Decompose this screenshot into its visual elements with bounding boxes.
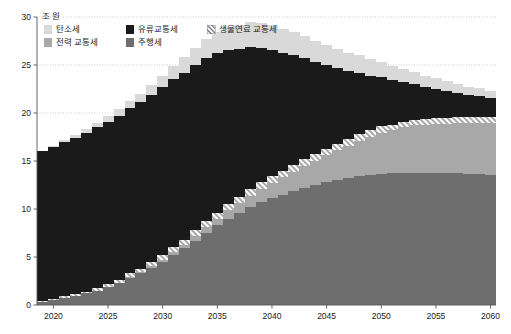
- bar-segment-유류교통세: [70, 138, 81, 294]
- bar-segment-생물연료 교통세: [365, 130, 376, 137]
- bar-segment-유류교통세: [157, 87, 168, 255]
- bar-segment-유류교통세: [114, 116, 125, 280]
- bar-segment-유류교통세: [146, 95, 157, 262]
- bar-segment-생물연료 교통세: [409, 120, 420, 126]
- bar-segment-탄소세: [354, 55, 365, 72]
- bar-segment-전력 교통세: [474, 123, 485, 175]
- bar-segment-주행세: [343, 178, 354, 305]
- x-tick-label: 2040: [263, 311, 282, 321]
- bar-segment-탄소세: [179, 57, 190, 72]
- bar-segment-주행세: [420, 173, 431, 305]
- bar-segment-탄소세: [146, 85, 157, 95]
- bar-segment-탄소세: [343, 53, 354, 71]
- bar-segment-주행세: [332, 180, 343, 305]
- y-tick-label: 15: [22, 156, 32, 166]
- bar-segment-탄소세: [441, 81, 452, 91]
- x-tick-label: 2050: [372, 311, 391, 321]
- bar-segment-탄소세: [212, 32, 223, 53]
- bar-segment-유류교통세: [59, 142, 70, 297]
- bar-segment-유류교통세: [365, 76, 376, 131]
- bar-segment-생물연료 교통세: [474, 117, 485, 123]
- bar-segment-탄소세: [114, 109, 125, 116]
- bar-segment-생물연료 교통세: [135, 269, 146, 273]
- bar-segment-탄소세: [81, 129, 92, 133]
- bar-segment-생물연료 교통세: [103, 284, 114, 287]
- y-tick-label: 30: [22, 12, 32, 22]
- y-tick-label: 0: [26, 300, 31, 310]
- legend-label-탄소세: 탄소세: [56, 24, 80, 34]
- bar-segment-주행세: [387, 173, 398, 305]
- bar-segment-탄소세: [48, 146, 59, 147]
- bar-segment-탄소세: [376, 62, 387, 77]
- bar-segment-전력 교통세: [179, 245, 190, 249]
- bar-segment-유류교통세: [398, 82, 409, 121]
- bar-segment-전력 교통세: [267, 183, 278, 198]
- y-tick-label: 25: [22, 60, 32, 70]
- bar-segment-유류교통세: [103, 122, 114, 284]
- bar-segment-주행세: [234, 213, 245, 305]
- bar-segment-생물연료 교통세: [321, 149, 332, 156]
- bar-segment-생물연료 교통세: [157, 255, 168, 260]
- legend-label-생물연료 교통세: 생물연료 교통세: [219, 24, 277, 34]
- bar-segment-생물연료 교통세: [431, 118, 442, 124]
- bar-segment-탄소세: [310, 41, 321, 62]
- x-tick-label: 2020: [44, 311, 63, 321]
- bar-segment-주행세: [190, 241, 201, 305]
- tax-revenue-stacked-bar-chart: 0510152025302020202520302035204020452050…: [0, 0, 511, 334]
- bar-segment-생물연료 교통세: [278, 171, 289, 178]
- bar-segment-탄소세: [420, 76, 431, 88]
- bar-segment-생물연료 교통세: [190, 230, 201, 236]
- bar-segment-유류교통세: [431, 89, 442, 118]
- bar-segment-탄소세: [201, 39, 212, 58]
- bar-segment-생물연료 교통세: [48, 299, 59, 300]
- bar-segment-생물연료 교통세: [332, 144, 343, 151]
- bar-segment-주행세: [354, 176, 365, 305]
- bar-segment-전력 교통세: [452, 123, 463, 174]
- bar-segment-생물연료 교통세: [420, 119, 431, 125]
- bar-segment-유류교통세: [299, 58, 310, 159]
- y-tick-label: 20: [22, 108, 32, 118]
- unit-label: 조 원: [42, 11, 60, 21]
- x-tick-label: 2055: [426, 311, 445, 321]
- y-tick-label: 5: [26, 252, 31, 262]
- bar-segment-주행세: [114, 283, 125, 305]
- bar-segment-탄소세: [474, 88, 485, 96]
- legend-item-주행세: 주행세: [126, 37, 162, 47]
- bar-segment-전력 교통세: [278, 177, 289, 194]
- bar-segment-주행세: [179, 248, 190, 305]
- bar-segment-주행세: [135, 273, 146, 305]
- legend-swatch-유류교통세: [126, 25, 134, 33]
- bar-segment-생물연료 교통세: [146, 262, 157, 266]
- bar-segment-주행세: [212, 225, 223, 305]
- bar-segment-전력 교통세: [431, 124, 442, 173]
- bar-segment-전력 교통세: [321, 155, 332, 182]
- bar-segment-주행세: [288, 191, 299, 305]
- bar-segment-주행세: [398, 173, 409, 305]
- bar-segment-주행세: [485, 175, 496, 305]
- bar-segment-탄소세: [59, 140, 70, 142]
- bar-segment-전력 교통세: [212, 219, 223, 226]
- bar-segment-생물연료 교통세: [223, 204, 234, 210]
- legend-swatch-전력 교통세: [44, 38, 52, 46]
- bar-segment-생물연료 교통세: [452, 117, 463, 123]
- bar-segment-탄소세: [299, 36, 310, 58]
- bar-segment-전력 교통세: [463, 123, 474, 175]
- bar-segment-탄소세: [157, 76, 168, 88]
- bar-segment-탄소세: [288, 32, 299, 55]
- legend-item-전력 교통세: 전력 교통세: [44, 37, 98, 47]
- legend-swatch-생물연료 교통세: [207, 25, 215, 33]
- bar-segment-탄소세: [190, 48, 201, 65]
- bar-segment-생물연료 교통세: [463, 117, 474, 123]
- bar-segment-주행세: [409, 173, 420, 305]
- bar-segment-탄소세: [452, 84, 463, 93]
- bar-segment-탄소세: [103, 116, 114, 122]
- bar-segment-탄소세: [463, 87, 474, 95]
- bar-segment-전력 교통세: [288, 172, 299, 191]
- bar-segment-전력 교통세: [135, 272, 146, 273]
- legend-swatch-탄소세: [44, 25, 52, 33]
- bar-segment-생물연료 교통세: [288, 165, 299, 172]
- bar-segment-유류교통세: [463, 95, 474, 117]
- bar-segment-유류교통세: [409, 84, 420, 120]
- bar-segment-유류교통세: [332, 68, 343, 144]
- bar-segment-주행세: [81, 293, 92, 305]
